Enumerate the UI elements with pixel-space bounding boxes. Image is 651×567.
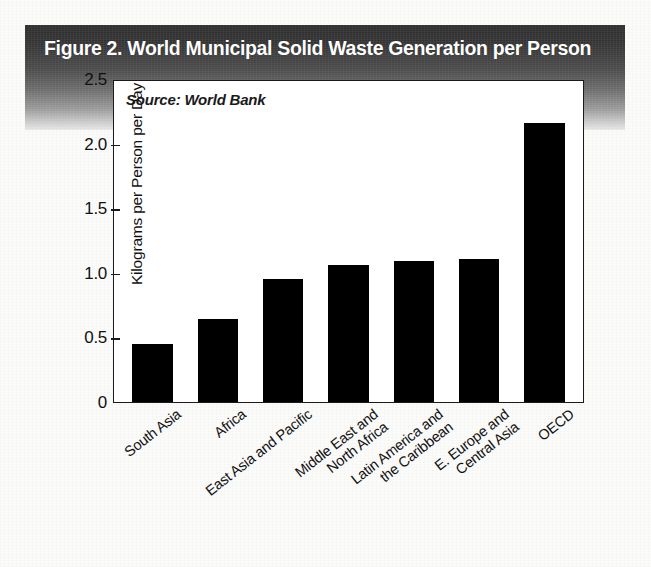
y-axis-tick-mark <box>111 209 120 211</box>
y-axis-tick-label: 2.5 <box>67 70 107 90</box>
bar-slot <box>251 81 316 402</box>
bar <box>394 261 434 402</box>
y-axis-title: Kilograms per Person per Day <box>128 54 146 314</box>
bar <box>328 265 368 402</box>
y-axis-tick-mark <box>111 338 120 340</box>
y-axis-tick-mark <box>111 145 120 147</box>
y-axis-tick-label: 1.5 <box>67 199 107 219</box>
bar-slot <box>512 81 577 402</box>
bar <box>263 279 303 402</box>
y-axis-tick-label: 0 <box>67 393 107 413</box>
bar-slot <box>446 81 511 402</box>
plot-area: Source: World Bank <box>113 80 584 403</box>
bar <box>198 319 238 402</box>
bar <box>524 123 564 402</box>
y-axis-tick-label: 2.0 <box>67 135 107 155</box>
bar <box>132 344 172 402</box>
bar-slot <box>316 81 381 402</box>
x-axis-tick-labels: South AsiaAfricaEast Asia and PacificMid… <box>113 406 584 521</box>
y-axis-tick-label: 0.5 <box>67 328 107 348</box>
scanned-page-background: Figure 2. World Municipal Solid Waste Ge… <box>0 0 651 567</box>
bar-slot <box>185 81 250 402</box>
y-axis-tick-labels: 00.51.01.52.02.5 <box>61 80 107 403</box>
y-axis-tick-mark <box>111 274 120 276</box>
figure-container: Figure 2. World Municipal Solid Waste Ge… <box>25 25 625 525</box>
bar-series <box>114 81 583 402</box>
bar-slot <box>381 81 446 402</box>
y-axis-tick-label: 1.0 <box>67 264 107 284</box>
bar <box>459 259 499 402</box>
